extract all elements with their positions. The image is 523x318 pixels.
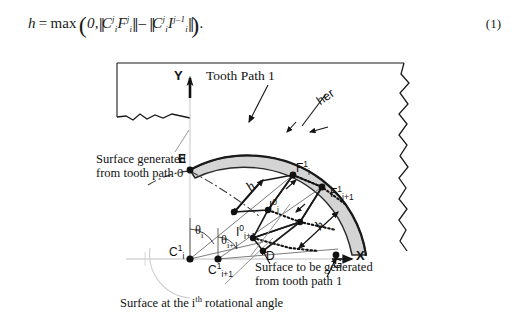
point-Ii0-label: I0i [269, 198, 279, 216]
surface-generated-path0-label: Surface generated from tooth path 0 [96, 152, 186, 180]
point-Ii0-left-dot [231, 209, 237, 215]
theta-ip1-sub: i+1 [227, 240, 238, 250]
point-Iip1-label: I0i+1 [236, 224, 256, 242]
equation-term2-base1: C [152, 15, 162, 31]
surface-ith-angle-post: rotational angle [202, 296, 283, 310]
equation-term1-sup2: j [127, 14, 130, 24]
equation-open-paren: ( [79, 12, 87, 38]
surface-to-be-generated-path1-label: Surface to be generated from tooth path … [255, 260, 373, 288]
surface-ith-angle-pre: Surface at the i [120, 296, 195, 310]
point-Cip1-base: C [208, 263, 217, 277]
equation-term2-sup1: j [163, 14, 166, 24]
equation-row: h=max(0,‖CjiFji‖–‖CjiIj–1i‖). (1) [0, 0, 523, 56]
equation-term1-sup1: j [112, 14, 115, 24]
point-Fi1-sub: i [308, 167, 310, 177]
equation-max-function: max [50, 15, 78, 31]
point-Fip1-sub: i+1 [342, 192, 354, 202]
tooth-path-1-label: Tooth Path 1 [206, 68, 275, 83]
point-Cip1-sub: i+1 [221, 269, 233, 279]
surface-generated-path0-line2: from tooth path 0 [96, 166, 186, 180]
equation-expression: h=max(0,‖CjiFji‖–‖CjiIj–1i‖). [28, 12, 203, 39]
point-Fip1-dot [319, 184, 326, 191]
surface-to-be-generated-path1-line2: from tooth path 1 [255, 274, 373, 288]
surface-to-be-generated-path1-line1: Surface to be generated [255, 260, 373, 274]
point-Ci1-dot [186, 255, 193, 262]
angle-theta-ip1-label: θi+1 [221, 233, 238, 250]
surface-ith-angle-sup: th [195, 294, 202, 304]
point-Ii0-sub: i [277, 205, 279, 215]
point-E-dot [187, 167, 194, 174]
figure-diagram: Y X Tooth Path 1 her E F1i F1i+1 I0i I0i… [0, 52, 523, 318]
surface-ith-rotational-angle-label: Surface at the ith rotational angle [120, 295, 283, 310]
equation-minus: – [135, 15, 149, 31]
equation-zero-term: 0, [87, 15, 99, 31]
theta-i-sub: i [201, 230, 203, 240]
point-Cip1-label: C1i+1 [208, 262, 233, 280]
equation-term1-base2: F [117, 15, 126, 31]
point-Ci1-base: C [169, 245, 178, 259]
point-Ci1-sub: i [182, 251, 184, 261]
equation-lhs: h [28, 15, 36, 31]
point-Fip1-label: F1i+1 [330, 185, 354, 203]
equation-number: (1) [486, 16, 501, 32]
equation-term1-base1: C [102, 15, 112, 31]
surface-generated-path0-line1: Surface generated [96, 152, 186, 166]
equation-equals: = [36, 15, 51, 31]
point-Fi1-label: F1i [296, 160, 310, 178]
point-mid-dot [297, 219, 303, 225]
y-axis-label: Y [174, 69, 183, 84]
point-Iip1-sub: i+1 [244, 231, 256, 241]
equation-term2-sup2: j–1 [173, 14, 185, 24]
equation-period: . [199, 15, 203, 31]
angle-theta-i-label: θi [195, 223, 203, 240]
point-Ci1-label: C1i [169, 244, 184, 262]
